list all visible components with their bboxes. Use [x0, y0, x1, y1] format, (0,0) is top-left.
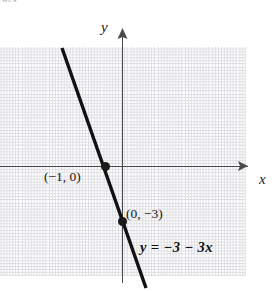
y-axis-label: y — [101, 20, 108, 35]
y-axis — [122, 31, 123, 283]
equation-label: y = −3 − 3x — [140, 240, 213, 255]
point-marker-x-intercept — [101, 162, 110, 171]
problem-number: 6.4 — [2, 0, 17, 4]
point-label-x-intercept: (−1, 0) — [44, 170, 81, 184]
graph-figure: 6.4 y x (−1, 0) (0, −3) y = −3 − 3x — [0, 0, 272, 291]
point-label-y-intercept: (0, −3) — [126, 207, 163, 221]
x-axis-label: x — [259, 172, 266, 187]
x-axis — [0, 166, 248, 167]
